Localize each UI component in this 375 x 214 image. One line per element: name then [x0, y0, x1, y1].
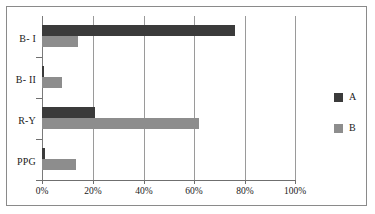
gridline-100 — [295, 16, 296, 180]
gridline-60 — [194, 16, 195, 180]
y-axis-label-b2: B- II — [8, 74, 36, 85]
x-tick-40 — [144, 181, 145, 184]
x-axis-label-80: 80% — [225, 186, 265, 196]
x-axis-label-0: 0% — [22, 186, 62, 196]
plot-area — [42, 16, 296, 180]
legend-swatch-b — [334, 124, 343, 133]
gridline-80 — [245, 16, 246, 180]
y-axis-label-ry: R-Y — [8, 115, 36, 126]
gridline-20 — [93, 16, 94, 180]
bar-b1-series-b — [42, 36, 78, 47]
legend-label-b: B — [349, 122, 356, 133]
x-tick-60 — [194, 181, 195, 184]
chart-figure: B- I B- II R-Y PPG 0% 20% 40% 60% 80% 10… — [0, 0, 375, 214]
legend-swatch-a — [334, 93, 343, 102]
x-tick-80 — [245, 181, 246, 184]
x-axis-label-40: 40% — [124, 186, 164, 196]
bar-ppg-series-b — [42, 159, 76, 170]
bar-ppg-series-a — [42, 148, 45, 159]
bar-b2-series-a — [42, 66, 44, 77]
x-axis-label-20: 20% — [73, 186, 113, 196]
legend-label-a: A — [349, 91, 356, 102]
y-axis-label-ppg: PPG — [8, 156, 36, 167]
y-tick-1 — [36, 57, 42, 58]
legend-item-a: A — [334, 92, 370, 104]
x-axis-line — [42, 180, 296, 181]
x-tick-20 — [93, 181, 94, 184]
bar-b2-series-b — [42, 77, 62, 88]
legend-item-b: B — [334, 123, 370, 135]
y-tick-2 — [36, 98, 42, 99]
gridline-40 — [144, 16, 145, 180]
x-tick-0 — [42, 181, 43, 184]
y-axis-label-b1: B- I — [8, 33, 36, 44]
bar-ry-series-b — [42, 118, 199, 129]
x-axis-label-60: 60% — [174, 186, 214, 196]
bar-b1-series-a — [42, 25, 235, 36]
x-axis-label-100: 100% — [275, 186, 315, 196]
x-tick-100 — [295, 181, 296, 184]
bar-ry-series-a — [42, 107, 95, 118]
y-tick-3 — [36, 139, 42, 140]
